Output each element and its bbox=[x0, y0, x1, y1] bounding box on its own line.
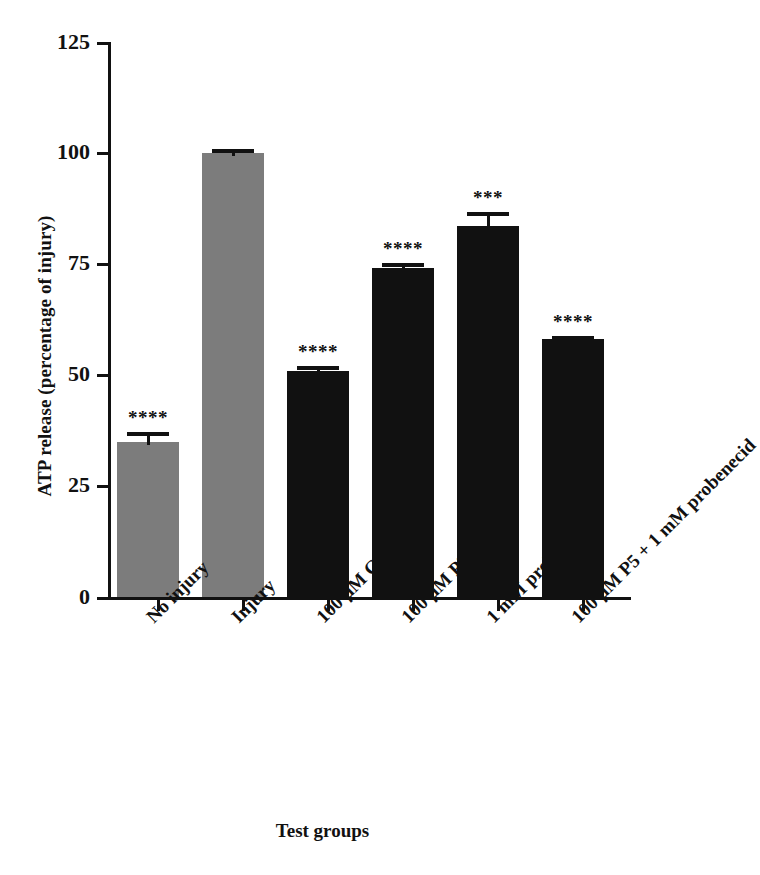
error-bar-cap-3 bbox=[382, 263, 424, 267]
y-tick-label-50: 50 bbox=[68, 361, 90, 387]
significance-label-2: **** bbox=[287, 342, 349, 361]
significance-label-0: **** bbox=[117, 408, 179, 427]
y-tick-label-75: 75 bbox=[68, 250, 90, 276]
error-bar-cap-2 bbox=[297, 366, 339, 370]
y-tick-25: 25 bbox=[97, 485, 108, 488]
y-tick-label-0: 0 bbox=[79, 584, 90, 610]
bar-1 bbox=[202, 153, 264, 597]
error-bar-cap-0 bbox=[127, 432, 169, 436]
x-axis-title: Test groups bbox=[0, 820, 645, 842]
y-tick-label-100: 100 bbox=[57, 139, 90, 165]
significance-label-5: **** bbox=[542, 312, 604, 331]
plot-area: 0 25 50 75 100 125 ******************* bbox=[108, 42, 631, 600]
y-tick-50: 50 bbox=[97, 374, 108, 377]
y-tick-100: 100 bbox=[97, 152, 108, 155]
y-tick-75: 75 bbox=[97, 263, 108, 266]
y-axis-line bbox=[108, 42, 111, 600]
bar-0 bbox=[117, 442, 179, 597]
error-bar-cap-4 bbox=[467, 212, 509, 216]
y-tick-0: 0 bbox=[97, 597, 108, 600]
error-bar-cap-5 bbox=[552, 336, 594, 340]
y-tick-label-25: 25 bbox=[68, 472, 90, 498]
error-bar-cap-1 bbox=[212, 149, 254, 153]
bar-2 bbox=[287, 371, 349, 597]
bar-4 bbox=[457, 226, 519, 597]
significance-label-4: *** bbox=[457, 188, 519, 207]
y-tick-label-125: 125 bbox=[57, 29, 90, 55]
y-tick-125: 125 bbox=[97, 42, 108, 45]
y-axis-title: ATP release (percentage of injury) bbox=[34, 156, 56, 556]
significance-label-3: **** bbox=[372, 239, 434, 258]
